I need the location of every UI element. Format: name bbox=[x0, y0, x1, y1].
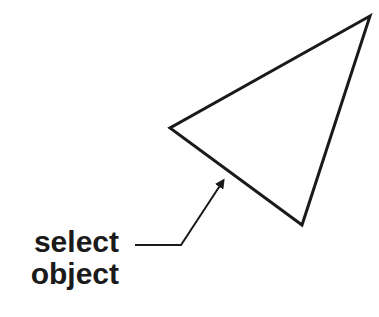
select-object-label: select object bbox=[24, 226, 119, 290]
leader-line-arrow bbox=[135, 181, 223, 245]
label-line-select: select bbox=[24, 226, 119, 258]
triangle-object[interactable] bbox=[170, 16, 370, 225]
label-line-object: object bbox=[24, 258, 119, 290]
